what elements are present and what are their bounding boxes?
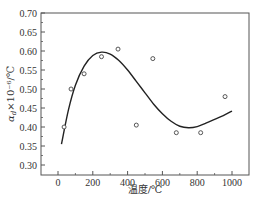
data-point — [151, 57, 155, 61]
data-point — [174, 131, 178, 135]
y-axis-title: αd×10⁻⁶/℃ — [5, 66, 18, 122]
x-tick-label: 800 — [190, 177, 205, 188]
data-point — [116, 47, 120, 51]
y-tick-label: 0.45 — [20, 103, 38, 114]
x-tick-label: 200 — [85, 177, 100, 188]
chart-canvas: 0.300.350.400.450.500.550.600.650.70 020… — [0, 0, 253, 197]
data-point — [69, 87, 73, 91]
x-tick-label: 1000 — [222, 177, 242, 188]
y-tick-label: 0.30 — [20, 160, 38, 171]
x-tick-label: 0 — [56, 177, 61, 188]
data-points — [62, 47, 227, 135]
fit-curve — [61, 52, 232, 144]
y-tick-label: 0.40 — [20, 122, 38, 133]
y-tick-label: 0.65 — [20, 27, 38, 38]
y-tick-label: 0.70 — [20, 8, 38, 19]
data-point — [82, 72, 86, 76]
data-point — [134, 123, 138, 127]
data-point — [199, 131, 203, 135]
x-axis-title: 温度/℃ — [128, 183, 163, 195]
y-tick-label: 0.50 — [20, 84, 38, 95]
y-axis: 0.300.350.400.450.500.550.600.650.70 — [20, 8, 46, 171]
data-point — [223, 95, 227, 99]
y-tick-label: 0.35 — [20, 141, 38, 152]
data-point — [100, 55, 104, 59]
data-point — [62, 125, 66, 129]
y-tick-label: 0.55 — [20, 65, 38, 76]
y-tick-label: 0.60 — [20, 46, 38, 57]
